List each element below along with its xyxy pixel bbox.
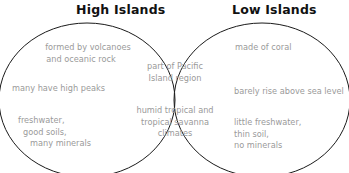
low-item-elevation: barely rise above sea level xyxy=(234,86,344,98)
text-line: formed by volcanoes xyxy=(28,42,148,54)
overlap-item-region: part of Pacific Island region xyxy=(115,61,235,84)
text-line: little freshwater, xyxy=(234,117,301,129)
text-line: tropical savanna xyxy=(115,117,235,129)
text-line: thin soil, xyxy=(234,129,301,141)
low-item-resources: little freshwater, thin soil, no mineral… xyxy=(234,117,301,152)
low-item-coral: made of coral xyxy=(235,42,292,54)
text-line: part of Pacific xyxy=(115,61,235,73)
text-line: barely rise above sea level xyxy=(234,86,344,98)
text-line: made of coral xyxy=(235,42,292,54)
text-line: no minerals xyxy=(234,140,301,152)
text-line: freshwater, xyxy=(18,115,91,127)
overlap-item-climate: humid tropical and tropical savanna clim… xyxy=(115,105,235,140)
text-line: many have high peaks xyxy=(12,83,105,95)
text-line: many minerals xyxy=(18,138,91,150)
high-item-peaks: many have high peaks xyxy=(12,83,105,95)
high-item-resources: freshwater, good soils, many minerals xyxy=(18,115,91,150)
text-line: Island region xyxy=(115,73,235,85)
text-line: good soils, xyxy=(18,127,91,139)
text-line: climates xyxy=(115,128,235,140)
text-line: humid tropical and xyxy=(115,105,235,117)
